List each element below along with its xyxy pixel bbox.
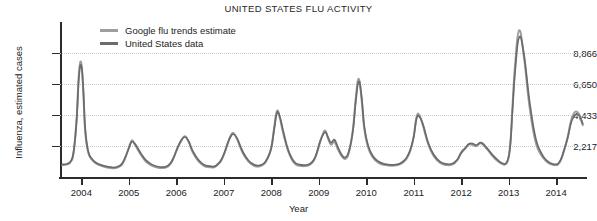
y-tick-mark (52, 115, 60, 117)
x-tick-label: 2012 (441, 187, 481, 198)
legend-swatch-icon (100, 42, 118, 45)
flu-activity-chart-figure: UNITED STATES FLU ACTIVITY Influenza, es… (0, 0, 597, 221)
x-tick-mark (81, 178, 83, 185)
x-tick-mark (366, 178, 368, 185)
y-tick-mark (52, 146, 60, 148)
x-tick-label: 2011 (394, 187, 434, 198)
x-tick-label: 2014 (536, 187, 576, 198)
y-tick-mark (52, 84, 60, 86)
x-tick-mark (319, 178, 321, 185)
x-tick-mark (129, 178, 131, 185)
x-tick-label: 2004 (61, 187, 101, 198)
x-tick-mark (224, 178, 226, 185)
y-tick-mark (52, 53, 60, 55)
series-line (62, 30, 582, 168)
series-line (62, 36, 582, 167)
x-tick-mark (556, 178, 558, 185)
x-tick-label: 2010 (346, 187, 386, 198)
x-tick-mark (509, 178, 511, 185)
x-tick-mark (414, 178, 416, 185)
x-tick-label: 2005 (109, 187, 149, 198)
legend-swatch-icon (100, 29, 118, 32)
chart-legend: Google flu trends estimateUnited States … (100, 24, 236, 50)
legend-item: United States data (100, 37, 236, 50)
x-tick-label: 2009 (299, 187, 339, 198)
legend-item: Google flu trends estimate (100, 24, 236, 37)
x-tick-label: 2006 (156, 187, 196, 198)
x-tick-mark (271, 178, 273, 185)
x-tick-label: 2007 (204, 187, 244, 198)
x-tick-mark (176, 178, 178, 185)
x-axis-title: Year (0, 203, 597, 214)
x-tick-mark (461, 178, 463, 185)
x-tick-label: 2008 (251, 187, 291, 198)
y-axis-title: Influenza, estimated cases (13, 28, 24, 178)
legend-item-label: Google flu trends estimate (125, 25, 236, 36)
chart-title: UNITED STATES FLU ACTIVITY (0, 3, 597, 14)
x-tick-label: 2013 (489, 187, 529, 198)
legend-item-label: United States data (125, 38, 203, 49)
